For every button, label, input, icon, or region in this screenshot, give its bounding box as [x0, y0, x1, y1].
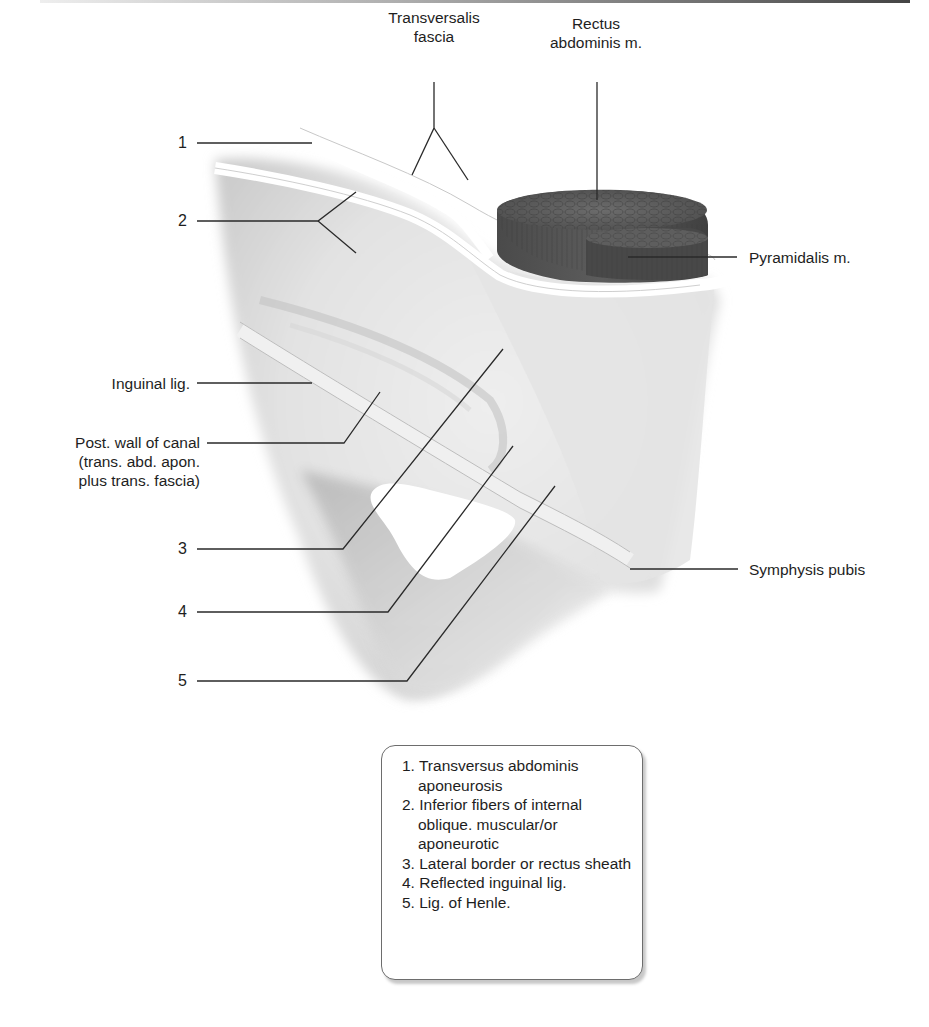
legend-list: 1. Transversus abdominis aponeurosis 2. … — [402, 756, 632, 912]
label-line: abdominis m. — [536, 33, 656, 52]
label-pyramidalis: Pyramidalis m. — [749, 248, 851, 267]
label-line: Rectus — [536, 14, 656, 33]
label-rectus-abdominis: Rectus abdominis m. — [536, 14, 656, 52]
number-label-4: 4 — [178, 603, 187, 621]
label-symphysis-pubis: Symphysis pubis — [749, 560, 865, 579]
label-line: (trans. abd. apon. — [20, 452, 200, 471]
legend-item: 1. Transversus abdominis aponeurosis — [402, 756, 632, 795]
label-post-wall: Post. wall of canal (trans. abd. apon. p… — [20, 433, 200, 490]
label-inguinal-lig: Inguinal lig. — [40, 374, 190, 393]
number-label-5: 5 — [178, 672, 187, 690]
legend-item: 3. Lateral border or rectus sheath — [402, 854, 632, 874]
label-line: plus trans. fascia) — [20, 471, 200, 490]
number-label-1: 1 — [178, 134, 187, 152]
label-line: Post. wall of canal — [20, 433, 200, 452]
legend-box: 1. Transversus abdominis aponeurosis 2. … — [381, 745, 643, 980]
label-transversalis-fascia: Transversalis fascia — [376, 8, 492, 46]
number-label-2: 2 — [178, 212, 187, 230]
legend-item: 5. Lig. of Henle. — [402, 893, 632, 913]
legend-item: 2. Inferior fibers of internal oblique. … — [402, 795, 632, 854]
label-line: Transversalis — [376, 8, 492, 27]
label-line: fascia — [376, 27, 492, 46]
number-label-3: 3 — [178, 540, 187, 558]
pyramidalis-muscle — [586, 227, 708, 280]
legend-item: 4. Reflected inguinal lig. — [402, 873, 632, 893]
